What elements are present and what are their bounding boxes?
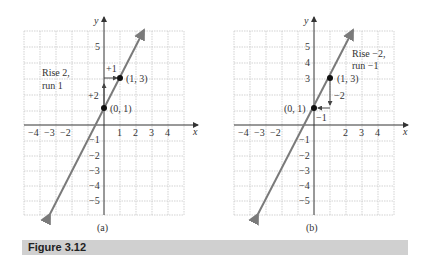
panel-b-yt-m1: −1 — [299, 134, 310, 145]
panel-a-point-0-1 — [101, 105, 107, 111]
panel-b-rise-label: −2 — [334, 90, 345, 101]
panel-a-point-1-3 — [117, 75, 123, 81]
panel-b-yt-5: 5 — [305, 41, 310, 52]
panel-b-point-label-1-3: (1, 3) — [337, 73, 359, 85]
panel-b-x-label: x — [402, 126, 408, 137]
panel-b-annotation-line2: run −1 — [352, 60, 378, 71]
panel-a-graph — [24, 17, 198, 215]
figure-caption: Figure 3.12 — [28, 240, 86, 255]
panel-b-yt-m3: −3 — [299, 165, 310, 176]
panel-a-xt-m2: −2 — [60, 127, 71, 138]
panel-b-yt-4: 4 — [305, 57, 310, 68]
panel-a-yt-m3: −3 — [89, 165, 100, 176]
figure-canvas: y x 5 −4 −3 −2 1 2 3 4 −1 −2 −3 −4 −5 (0… — [0, 0, 430, 264]
panel-b-y-label: y — [303, 15, 309, 26]
panel-a-yt-5: 5 — [95, 41, 100, 52]
panel-b-point-0-1 — [311, 105, 317, 111]
panel-a-xt-1: 1 — [117, 127, 122, 138]
panel-b-xt-m2: −2 — [270, 127, 281, 138]
panel-b-xt-3: 3 — [359, 127, 364, 138]
panel-b-annotation-line1: Rise −2, — [352, 48, 385, 59]
panel-a-xt-m3: −3 — [44, 127, 55, 138]
panel-a-xt-m4: −4 — [28, 127, 39, 138]
panel-a-sublabel: (a) — [97, 222, 108, 234]
panel-b-run-label: −1 — [316, 112, 327, 123]
panel-a-yt-m2: −2 — [89, 150, 100, 161]
panel-b-xt-m4: −4 — [238, 127, 249, 138]
panel-a-point-label-0-1: (0, 1) — [110, 103, 132, 115]
panel-b-xt-m3: −3 — [254, 127, 265, 138]
panel-b-yt-m4: −4 — [299, 180, 310, 191]
panel-a-yt-m1: −1 — [89, 134, 100, 145]
panel-a-annotation-line1: Rise 2, — [42, 67, 70, 78]
panel-a-x-label: x — [192, 126, 198, 137]
panel-a-run-label: +1 — [106, 63, 117, 74]
panel-a-xt-3: 3 — [149, 127, 154, 138]
panel-a-xt-4: 4 — [165, 127, 170, 138]
panel-b-sublabel: (b) — [306, 222, 318, 234]
panel-b-yt-m2: −2 — [299, 150, 310, 161]
panel-b-point-label-0-1: (0, 1) — [284, 103, 306, 115]
panel-b-xt-2: 2 — [343, 127, 348, 138]
figure-caption-bar: Figure 3.12 — [22, 240, 408, 255]
panel-a-yt-m4: −4 — [89, 180, 100, 191]
panel-a-y-label: y — [93, 15, 99, 26]
panel-b-yt-3: 3 — [305, 73, 310, 84]
panel-b-xt-4: 4 — [375, 127, 380, 138]
panel-b-yt-m5: −5 — [299, 195, 310, 206]
panel-b-point-1-3 — [327, 75, 333, 81]
panel-a-xt-2: 2 — [133, 127, 138, 138]
panel-a-rise-label: +2 — [88, 90, 99, 101]
panel-a-yt-m5: −5 — [89, 195, 100, 206]
panel-a-annotation-line2: run 1 — [42, 80, 63, 91]
panel-a-point-label-1-3: (1, 3) — [126, 73, 148, 85]
